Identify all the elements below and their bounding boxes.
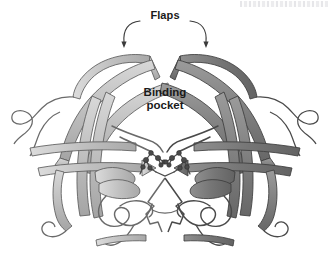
beta-strand-a-cterm: [96, 235, 146, 246]
flaps-arrowheads: [121, 42, 208, 49]
bottom-loop-a1: [99, 196, 152, 226]
protein-structure-figure: Flaps Binding pocket: [0, 0, 330, 256]
chain-b-dark: [160, 55, 318, 247]
alpha-helix-a: [95, 168, 140, 199]
beta-strand-a7: [53, 170, 72, 231]
alpha-helix-b: [190, 168, 235, 199]
beta-strand-b7: [258, 170, 277, 231]
bottom-loop-b1: [178, 196, 231, 226]
flaps-label: Flaps: [0, 9, 330, 21]
binding-pocket-label: Binding pocket: [0, 86, 330, 112]
beta-strand-b-cterm: [184, 235, 234, 246]
chain-a-light: [12, 55, 170, 247]
active-site-atoms: [141, 151, 190, 171]
central-beta-tent: [146, 178, 184, 232]
tent-cross: [152, 210, 178, 213]
ribbon-diagram: [0, 0, 330, 256]
asp-dyad-link: [156, 172, 174, 176]
flaps-leader-arrows: [124, 21, 206, 42]
